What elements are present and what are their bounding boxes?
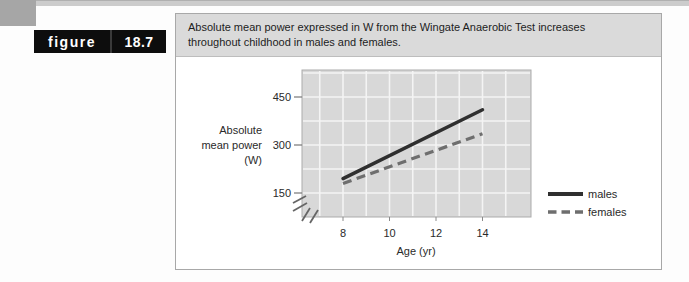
- figure-word: figure: [34, 34, 110, 50]
- caption-line-1: Absolute mean power expressed in W from …: [188, 20, 653, 35]
- figure-caption: Absolute mean power expressed in W from …: [176, 14, 661, 57]
- x-tick-label: 14: [476, 227, 488, 239]
- x-tick-label: 8: [340, 227, 346, 239]
- figure-number: 18.7: [112, 34, 166, 50]
- line-chart: 4503001508101214Age (yr)Absolutemean pow…: [176, 57, 661, 269]
- y-axis-label-line: mean power: [201, 139, 262, 151]
- y-axis-label-line: Absolute: [219, 124, 262, 136]
- x-axis-label: Age (yr): [396, 245, 435, 257]
- book-figure-page: figure 18.7 Absolute mean power expresse…: [0, 0, 689, 282]
- y-tick-label: 150: [273, 187, 291, 199]
- legend-label-males: males: [588, 188, 618, 200]
- caption-line-2: throughout childhood in males and female…: [188, 35, 653, 50]
- x-tick-label: 12: [430, 227, 442, 239]
- x-tick-label: 10: [383, 227, 395, 239]
- figure-panel: Absolute mean power expressed in W from …: [175, 13, 662, 270]
- y-axis-label-line: (W): [244, 154, 262, 166]
- legend-label-females: females: [588, 206, 627, 218]
- y-tick-label: 450: [273, 91, 291, 103]
- figure-label-tab: figure 18.7: [34, 30, 166, 53]
- chart: 4503001508101214Age (yr)Absolutemean pow…: [176, 57, 661, 269]
- figure-tab-gray-accent: [0, 0, 36, 26]
- top-rule: [0, 0, 689, 6]
- y-tick-label: 300: [273, 139, 291, 151]
